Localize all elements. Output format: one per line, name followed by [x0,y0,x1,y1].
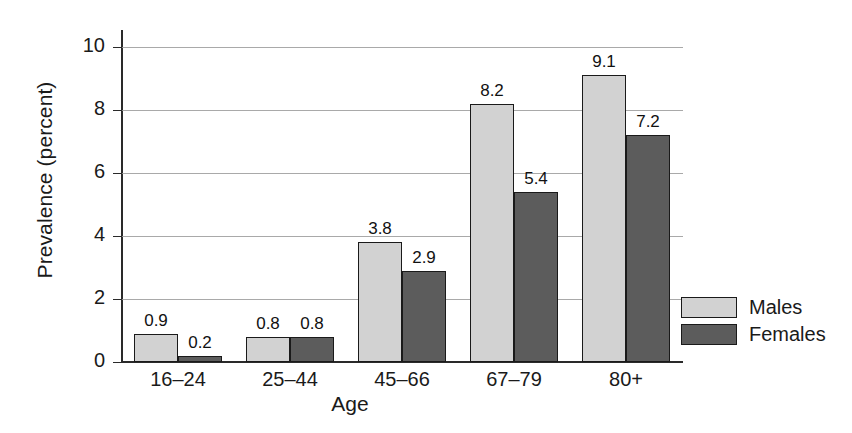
bar-group: 3.82.9 [346,47,458,362]
chart-legend: MalesFemales [681,295,826,349]
y-axis-tick [113,173,122,174]
bar-group: 8.25.4 [458,47,570,362]
y-axis-tick-label: 10 [65,34,105,57]
x-axis-category-label: 45–66 [346,368,458,391]
bar-females-1[interactable] [290,337,334,362]
legend-item-females[interactable]: Females [681,322,826,347]
y-axis-tick-label: 8 [65,97,105,120]
legend-swatch-females [681,324,737,345]
bar-group: 9.17.2 [570,47,682,362]
bar-males-2[interactable] [358,242,402,362]
x-axis-title: Age [0,392,700,416]
y-axis-tick-label: 4 [65,223,105,246]
bar-females-4[interactable] [626,135,670,362]
bar-value-label: 0.8 [290,314,334,334]
bar-value-label: 7.2 [626,112,670,132]
bar-males-4[interactable] [582,75,626,362]
y-axis-tick [113,299,122,300]
x-axis-category-label: 80+ [570,368,682,391]
y-axis-tick [113,236,122,237]
bar-group: 0.80.8 [234,47,346,362]
bar-value-label: 2.9 [402,248,446,268]
bar-males-0[interactable] [134,334,178,362]
bar-value-label: 9.1 [582,52,626,72]
y-axis-tick-label: 6 [65,160,105,183]
y-axis-tick [113,110,122,111]
bar-value-label: 0.2 [178,333,222,353]
prevalence-by-age-bar-chart: Prevalence (percent) 0246810 0.90.20.80.… [0,0,852,433]
y-axis-tick [113,362,122,363]
bar-value-label: 8.2 [470,81,514,101]
x-axis-category-label: 67–79 [458,368,570,391]
x-axis-category-label: 16–24 [122,368,234,391]
bar-group: 0.90.2 [122,47,234,362]
bar-females-0[interactable] [178,356,222,362]
bar-value-label: 0.9 [134,311,178,331]
bar-value-label: 5.4 [514,169,558,189]
y-axis-title: Prevalence (percent) [33,50,57,310]
y-axis-tick-label: 0 [65,349,105,372]
x-axis-category-label: 25–44 [234,368,346,391]
bar-males-3[interactable] [470,104,514,362]
bars-layer: 0.90.20.80.83.82.98.25.49.17.2 [122,47,682,362]
bar-females-2[interactable] [402,271,446,362]
bar-value-label: 0.8 [246,314,290,334]
y-axis-tick-label: 2 [65,286,105,309]
y-axis-tick [113,47,122,48]
gridline [122,362,683,363]
legend-swatch-males [681,297,737,318]
bar-value-label: 3.8 [358,219,402,239]
bar-males-1[interactable] [246,337,290,362]
legend-label: Males [749,296,802,319]
legend-label: Females [749,323,826,346]
legend-item-males[interactable]: Males [681,295,826,320]
bar-females-3[interactable] [514,192,558,362]
